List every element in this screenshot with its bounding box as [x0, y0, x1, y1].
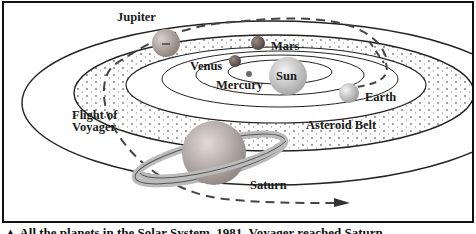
venus [229, 55, 241, 67]
earth [339, 83, 359, 103]
mercury [246, 71, 252, 77]
label-earth: Earth [365, 91, 396, 104]
label-asteroid-belt: Asteroid Belt [306, 119, 376, 132]
label-sun: Sun [276, 70, 297, 83]
label-jupiter: Jupiter [117, 11, 156, 24]
label-mercury: Mercury [216, 79, 263, 92]
mars [251, 36, 265, 50]
label-flight-line2: Voyager [72, 121, 116, 134]
label-saturn: Saturn [250, 179, 287, 192]
label-mars: Mars [271, 40, 299, 53]
figure-caption: ▲ All the planets in the Solar System. 1… [4, 226, 383, 234]
label-venus: Venus [190, 60, 222, 73]
voyager-arrow-head [334, 198, 350, 207]
diagram-frame: Jupiter Mars Venus Sun Mercury Earth Fli… [2, 1, 474, 223]
